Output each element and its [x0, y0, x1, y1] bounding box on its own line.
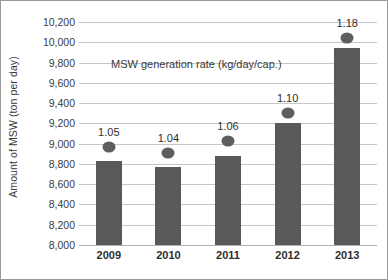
gridline	[79, 22, 377, 23]
series-annotation: MSW generation rate (kg/day/cap.)	[111, 58, 282, 70]
y-axis-tick-labels: 10,20010,0009,8009,6009,4009,2009,0008,8…	[25, 22, 79, 245]
bar	[334, 48, 360, 245]
bar	[155, 167, 181, 245]
data-point-label: 1.05	[98, 126, 119, 138]
scatter-point	[281, 108, 294, 119]
gridline	[79, 83, 377, 84]
data-point-label: 1.04	[158, 132, 179, 144]
y-axis-tick-label: 8,600	[49, 178, 75, 190]
y-axis-tick-label: 8,000	[49, 239, 75, 251]
gridline	[79, 245, 377, 246]
y-axis-tick-label: 8,400	[49, 198, 75, 210]
bar	[215, 156, 241, 245]
y-axis-title-text: Amount of MSW (ton per day)	[7, 56, 19, 198]
y-axis-tick-label: 9,400	[49, 97, 75, 109]
y-axis-tick-label: 10,200	[43, 16, 75, 28]
chart-figure: Amount of MSW (ton per day) 10,20010,000…	[0, 0, 388, 280]
data-point-label: 1.10	[277, 92, 298, 104]
scatter-point	[162, 147, 175, 158]
scatter-point	[222, 135, 235, 146]
y-axis-tick-label: 9,200	[49, 117, 75, 129]
data-point-label: 1.18	[336, 17, 357, 29]
scatter-point	[341, 33, 354, 44]
x-axis-tick-label: 2009	[97, 249, 121, 261]
bar	[275, 123, 301, 245]
data-point-label: 1.06	[217, 120, 238, 132]
y-axis-tick-label: 9,000	[49, 138, 75, 150]
y-axis-tick-label: 8,200	[49, 219, 75, 231]
y-axis-tick-label: 10,000	[43, 36, 75, 48]
x-axis-tick-label: 2010	[156, 249, 180, 261]
x-axis-tick-labels: 20092010201120122013	[79, 249, 377, 271]
plot-area: 1.051.041.061.101.18 MSW generation rate…	[79, 22, 377, 245]
x-axis-tick-label: 2011	[216, 249, 240, 261]
gridline	[79, 103, 377, 104]
gridline	[79, 42, 377, 43]
y-axis-tick-label: 9,800	[49, 57, 75, 69]
y-axis-tick-label: 9,600	[49, 77, 75, 89]
x-axis-tick-label: 2012	[275, 249, 299, 261]
bar	[96, 161, 122, 245]
y-axis-title: Amount of MSW (ton per day)	[1, 1, 25, 253]
y-axis-tick-label: 8,800	[49, 158, 75, 170]
scatter-point	[102, 141, 115, 152]
x-axis-tick-label: 2013	[335, 249, 359, 261]
